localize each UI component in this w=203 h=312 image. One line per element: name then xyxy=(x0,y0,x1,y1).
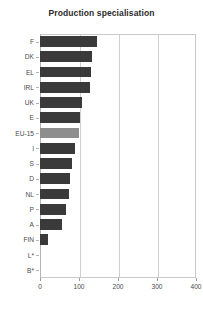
bar-row[interactable] xyxy=(40,34,196,49)
bar-f[interactable] xyxy=(40,36,97,47)
bar-row[interactable] xyxy=(40,202,196,217)
y-tick xyxy=(36,42,39,43)
y-label-i: I xyxy=(0,141,36,156)
bar-row[interactable] xyxy=(40,80,196,95)
x-tick-0 xyxy=(40,278,41,281)
y-tick xyxy=(36,72,39,73)
production-specialisation-chart: Production specialisation FDKELIRLUKEEU-… xyxy=(0,0,203,312)
y-label-e: E xyxy=(0,110,36,125)
x-tick-100 xyxy=(79,278,80,281)
y-tick xyxy=(36,118,39,119)
bar-a[interactable] xyxy=(40,219,62,230)
x-label-300: 300 xyxy=(151,283,162,290)
bar-uk[interactable] xyxy=(40,97,82,108)
y-label-f: F xyxy=(0,34,36,49)
y-tick xyxy=(36,255,39,256)
bar-eu-15[interactable] xyxy=(40,128,79,139)
y-label-nl: NL xyxy=(0,187,36,202)
bar-row[interactable] xyxy=(40,141,196,156)
bar-row[interactable] xyxy=(40,49,196,64)
bar-row[interactable] xyxy=(40,187,196,202)
y-label-dk: DK xyxy=(0,49,36,64)
bar-row[interactable] xyxy=(40,217,196,232)
y-tick xyxy=(36,87,39,88)
y-tick xyxy=(36,57,39,58)
y-tick xyxy=(36,209,39,210)
bar-el[interactable] xyxy=(40,67,91,78)
bar-dk[interactable] xyxy=(40,51,92,62)
x-label-100: 100 xyxy=(73,283,84,290)
bar-row[interactable] xyxy=(40,95,196,110)
x-tick-400 xyxy=(196,278,197,281)
x-axis-tick-labels: 0100200300400 xyxy=(0,283,203,295)
bar-s[interactable] xyxy=(40,158,72,169)
bar-row[interactable] xyxy=(40,65,196,80)
y-label-d: D xyxy=(0,171,36,186)
bar-row[interactable] xyxy=(40,171,196,186)
bars-layer xyxy=(40,34,196,278)
bar-e[interactable] xyxy=(40,112,80,123)
y-tick xyxy=(36,148,39,149)
bar-row[interactable] xyxy=(40,126,196,141)
bar-fin[interactable] xyxy=(40,234,48,245)
bar-row[interactable] xyxy=(40,232,196,247)
bar-row[interactable] xyxy=(40,110,196,125)
bar-d[interactable] xyxy=(40,173,70,184)
y-tick xyxy=(36,164,39,165)
y-label-a: A xyxy=(0,217,36,232)
y-label-eu-15: EU-15 xyxy=(0,126,36,141)
y-label-s: S xyxy=(0,156,36,171)
bar-row[interactable] xyxy=(40,263,196,278)
y-label-uk: UK xyxy=(0,95,36,110)
bar-nl[interactable] xyxy=(40,189,69,200)
x-label-400: 400 xyxy=(190,283,201,290)
bar-p[interactable] xyxy=(40,204,66,215)
y-tick xyxy=(36,179,39,180)
bar-row[interactable] xyxy=(40,248,196,263)
y-tick xyxy=(36,225,39,226)
y-label-fin: FIN xyxy=(0,232,36,247)
y-tick xyxy=(36,270,39,271)
bar-i[interactable] xyxy=(40,143,75,154)
x-label-200: 200 xyxy=(112,283,123,290)
y-axis-category-labels: FDKELIRLUKEEU-15ISDNLPAFINL*B* xyxy=(0,34,36,278)
y-label-lstar: L* xyxy=(0,248,36,263)
y-tick xyxy=(36,133,39,134)
x-tick-200 xyxy=(118,278,119,281)
x-label-0: 0 xyxy=(38,283,42,290)
chart-title: Production specialisation xyxy=(0,8,203,18)
y-label-irl: IRL xyxy=(0,80,36,95)
y-tick xyxy=(36,194,39,195)
y-label-p: P xyxy=(0,202,36,217)
y-label-el: EL xyxy=(0,65,36,80)
y-tick xyxy=(36,240,39,241)
bar-row[interactable] xyxy=(40,156,196,171)
x-tick-300 xyxy=(157,278,158,281)
y-label-bstar: B* xyxy=(0,263,36,278)
bar-irl[interactable] xyxy=(40,82,90,93)
x-axis-ticks xyxy=(40,278,196,282)
y-tick xyxy=(36,103,39,104)
